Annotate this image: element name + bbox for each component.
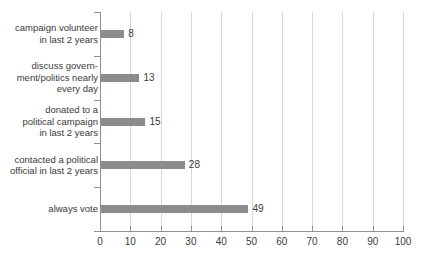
bar-value-label: 28	[189, 160, 200, 170]
x-axis-tick	[100, 226, 101, 232]
x-axis-tick	[342, 226, 343, 232]
bar-chart: 0102030405060708090100 campaign voluntee…	[0, 0, 423, 253]
x-axis-tick	[373, 226, 374, 232]
y-axis-tick	[94, 12, 100, 13]
bar-value-label: 49	[252, 204, 263, 214]
x-axis-tick-label: 100	[388, 236, 418, 247]
x-axis-tick-label: 10	[115, 236, 145, 247]
x-axis-tick-label: 50	[237, 236, 267, 247]
x-axis-tick	[312, 226, 313, 232]
y-axis-tick	[94, 56, 100, 57]
plot-area	[100, 12, 403, 231]
gridline-80	[342, 12, 343, 231]
x-axis-tick-label: 20	[146, 236, 176, 247]
gridline-100	[403, 12, 404, 231]
x-axis-tick	[221, 226, 222, 232]
category-label: contacted a political official in last 2…	[0, 154, 98, 177]
y-axis-tick	[94, 187, 100, 188]
x-axis-tick	[161, 226, 162, 232]
gridline-90	[373, 12, 374, 231]
gridline-30	[191, 12, 192, 231]
y-axis-tick	[94, 100, 100, 101]
x-axis-tick	[252, 226, 253, 232]
x-axis-tick-label: 30	[176, 236, 206, 247]
bar-value-label: 15	[149, 117, 160, 127]
x-axis-tick-label: 0	[85, 236, 115, 247]
x-axis-tick-label: 60	[267, 236, 297, 247]
gridline-50	[252, 12, 253, 231]
y-axis-line	[100, 12, 101, 231]
category-label: always vote	[0, 203, 98, 215]
x-axis-tick-label: 90	[358, 236, 388, 247]
bar-value-label: 8	[128, 29, 134, 39]
bar	[100, 30, 124, 38]
x-axis-tick	[130, 226, 131, 232]
x-axis-tick	[191, 226, 192, 232]
x-axis-tick-label: 80	[327, 236, 357, 247]
bar-value-label: 13	[143, 73, 154, 83]
gridline-40	[221, 12, 222, 231]
category-label: donated to a political campaign in last …	[0, 104, 98, 139]
bar	[100, 161, 185, 169]
x-axis-tick-label: 70	[297, 236, 327, 247]
x-axis-tick	[403, 226, 404, 232]
category-label: campaign volunteer in last 2 years	[0, 22, 98, 45]
bar	[100, 118, 145, 126]
bar	[100, 74, 139, 82]
bar	[100, 205, 248, 213]
x-axis-tick	[282, 226, 283, 232]
gridline-60	[282, 12, 283, 231]
category-label: discuss govern- ment/politics nearly eve…	[0, 60, 98, 95]
gridline-70	[312, 12, 313, 231]
x-axis-tick-label: 40	[206, 236, 236, 247]
y-axis-tick	[94, 143, 100, 144]
